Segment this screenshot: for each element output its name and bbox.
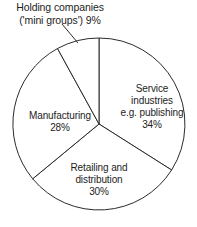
pie-label-retailing-and-distribution: Retailing and distribution 30%: [52, 162, 146, 198]
leader-line-holding-companies: [62, 24, 78, 43]
pie-label-service-industries: Service industries e.g. publishing 34%: [109, 83, 195, 131]
pie-label-manufacturing: Manufacturing 28%: [16, 110, 104, 134]
pie-chart-figure: Holding companies ('mini groups') 9% Ser…: [0, 0, 197, 227]
pie-label-holding-companies: Holding companies ('mini groups') 9%: [2, 1, 118, 27]
